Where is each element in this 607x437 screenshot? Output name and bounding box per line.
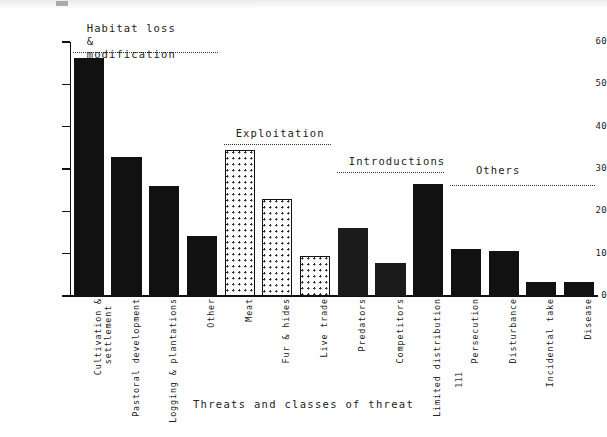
x-label-incidental-take: Incidental take (545, 298, 555, 387)
x-label-line1: Incidental take (545, 298, 555, 387)
y-axis-tick (62, 295, 70, 296)
bar-predators (338, 228, 368, 296)
x-label-line1: Disturbance (508, 298, 518, 363)
bar-limited-distribution (413, 184, 443, 296)
x-label-line1: Other (206, 298, 216, 328)
bar-pastoral-development (111, 157, 141, 296)
x-label-disease: Disease (583, 298, 593, 340)
bar-fur-hides (262, 199, 292, 296)
x-label-other: Other (206, 298, 216, 328)
x-label-cultivation-settlement: Cultivation &settlement (93, 298, 113, 375)
x-label-line2: settlement (103, 298, 113, 364)
x-label-persecution: Persecution (470, 298, 480, 363)
x-label-line1: Live trade (319, 298, 329, 357)
bar-incidental-take (526, 282, 556, 296)
x-label-predators: Predators (357, 298, 367, 351)
y-axis-tick (62, 168, 70, 169)
x-label-disturbance: Disturbance (508, 298, 518, 363)
scan-artifact (0, 0, 607, 9)
y-axis-tick (62, 126, 70, 127)
x-label-line1: Disease (583, 298, 593, 340)
page-edge-mark: 111 (455, 372, 464, 388)
x-label-fur-hides: Fur & hides (281, 298, 291, 363)
bar-live-trade (300, 256, 330, 296)
bar-other (187, 236, 217, 296)
x-label-line1: Cultivation & (93, 298, 103, 375)
bars-container (70, 42, 598, 296)
bar-logging-plantations (149, 186, 179, 296)
y-axis-tick (62, 253, 70, 254)
bar-persecution (451, 249, 481, 296)
x-label-line1: Fur & hides (281, 298, 291, 363)
bar-cultivation-settlement (74, 58, 104, 296)
x-label-line1: Persecution (470, 298, 480, 363)
bar-disturbance (489, 251, 519, 296)
bar-meat (225, 150, 255, 296)
x-axis-title: Threats and classes of threat (0, 398, 607, 410)
y-axis-tick (62, 84, 70, 85)
bar-disease (564, 282, 594, 296)
y-axis-tick (62, 41, 70, 42)
x-label-line1: Meat (244, 298, 254, 322)
bar-competitors (375, 263, 405, 296)
x-label-line1: Competitors (395, 298, 405, 363)
x-label-line1: Predators (357, 298, 367, 351)
bar-chart-figure: Per cent of species affected 01020304050… (0, 0, 607, 437)
y-axis-tick (62, 211, 70, 212)
x-label-competitors: Competitors (395, 298, 405, 363)
x-label-live-trade: Live trade (319, 298, 329, 357)
x-label-meat: Meat (244, 298, 254, 322)
x-axis-tick-labels: Cultivation &settlementPastoral developm… (70, 298, 598, 394)
